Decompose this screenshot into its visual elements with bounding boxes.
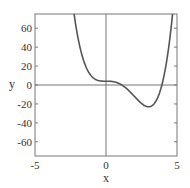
y-tick-label: -60 [17, 136, 32, 148]
tick-labels: -60-40-200204060-505 [17, 22, 180, 171]
x-axis-title: x [103, 171, 109, 185]
x-tick-label: 5 [174, 159, 180, 171]
y-tick-label: -40 [17, 117, 32, 129]
y-tick-label: 40 [21, 41, 33, 53]
x-tick-label: 0 [103, 159, 109, 171]
y-axis-title: y [9, 77, 15, 91]
y-tick-label: 20 [21, 60, 33, 72]
function-plot: -60-40-200204060-505 x y [0, 0, 190, 188]
plot-area [35, 0, 177, 156]
y-tick-label: 60 [21, 22, 33, 34]
y-tick-label: -20 [17, 98, 32, 110]
y-tick-label: 0 [27, 79, 33, 91]
x-tick-label: -5 [30, 159, 40, 171]
